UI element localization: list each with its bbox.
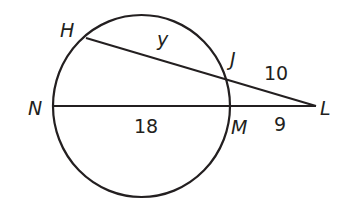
point-label-N: N bbox=[28, 97, 42, 119]
secant-diagram: H y J 10 L N 18 M 9 bbox=[0, 0, 353, 211]
segment-label-HJ: y bbox=[156, 28, 169, 50]
segment-label-JL: 10 bbox=[264, 62, 288, 84]
point-label-M: M bbox=[231, 116, 247, 138]
point-label-L: L bbox=[320, 97, 331, 119]
segment-label-ML: 9 bbox=[274, 113, 286, 135]
point-label-H: H bbox=[60, 19, 74, 41]
point-label-J: J bbox=[226, 48, 236, 70]
segment-label-NM: 18 bbox=[134, 115, 158, 137]
